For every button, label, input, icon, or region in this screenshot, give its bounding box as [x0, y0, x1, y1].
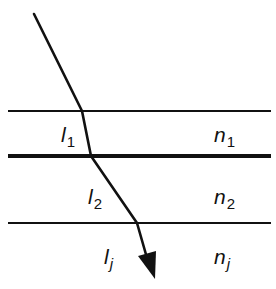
index-label-main: n [214, 245, 226, 268]
index-label-sub: j [227, 255, 230, 272]
arrowhead-icon [138, 251, 156, 279]
index-label-n1: n1 [214, 124, 235, 145]
path-label-sub: j [110, 255, 113, 272]
path-label-sub: 2 [94, 195, 102, 212]
index-label-main: n [214, 185, 226, 208]
path-label-l2: l2 [88, 186, 102, 207]
index-label-nj: nj [214, 246, 230, 267]
index-label-sub: 2 [227, 195, 235, 212]
refraction-diagram: l1 n1 l2 n2 lj nj [0, 0, 276, 289]
index-label-n2: n2 [214, 186, 235, 207]
path-label-lj: lj [104, 246, 113, 267]
path-label-sub: 1 [67, 133, 75, 150]
path-label-main: l [61, 123, 66, 146]
index-label-sub: 1 [227, 133, 235, 150]
light-ray [34, 14, 147, 258]
path-label-main: l [104, 245, 109, 268]
path-label-l1: l1 [61, 124, 75, 145]
index-label-main: n [214, 123, 226, 146]
path-label-main: l [88, 185, 93, 208]
